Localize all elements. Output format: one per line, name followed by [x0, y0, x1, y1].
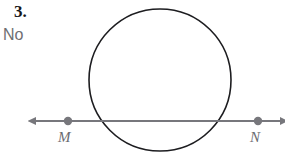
point-n-marker: [254, 117, 262, 125]
point-m-label: M: [58, 130, 71, 145]
problem-number: 3.: [14, 3, 27, 20]
geometry-figure-container: 3. No M N: [0, 0, 285, 154]
answer-text: No: [3, 27, 23, 43]
geometry-diagram: [0, 0, 285, 154]
point-n-label: N: [250, 130, 260, 145]
circle-shape: [89, 9, 231, 151]
point-m-marker: [64, 117, 72, 125]
